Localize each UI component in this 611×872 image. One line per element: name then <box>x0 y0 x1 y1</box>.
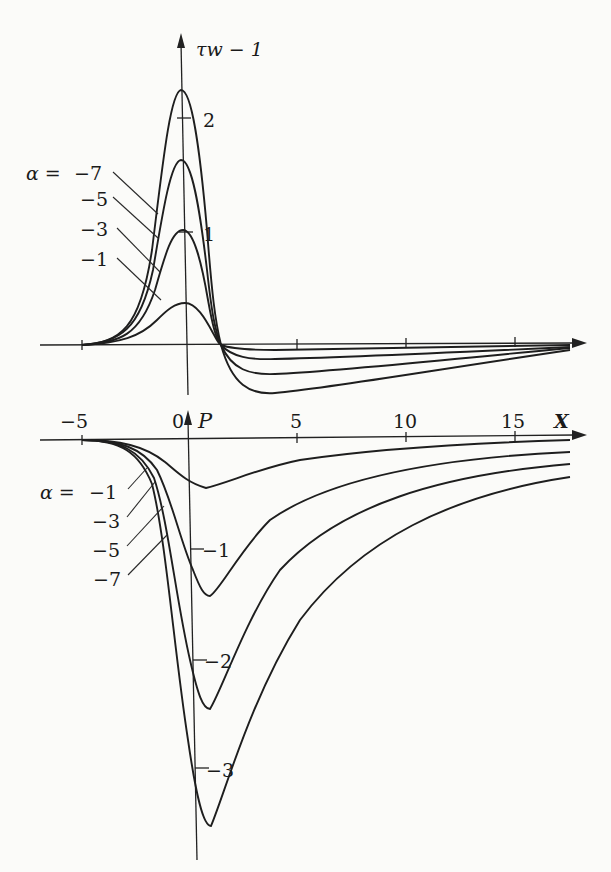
bottom-y-tick-label-m3: −3 <box>206 759 234 781</box>
figure: 2 1 τw − 1 α = −7 −5 −3 −1 −5 0 5 10 15 … <box>0 0 611 872</box>
top-legend-m7: −7 <box>74 162 102 184</box>
top-legend-title: α = <box>26 162 61 184</box>
x-tick-label-15: 15 <box>501 410 525 432</box>
top-y-axis-label: τw − 1 <box>196 38 263 60</box>
top-legend-m1: −1 <box>80 248 108 270</box>
bottom-legend-m5: −5 <box>92 539 120 561</box>
top-y-tick-label-2: 2 <box>203 109 215 131</box>
x-tick-label-0: 0 <box>172 410 184 432</box>
bottom-legend-m7: −7 <box>93 568 121 590</box>
x-tick-label-m5: −5 <box>60 410 88 432</box>
bottom-alpha-prefix: α = <box>40 481 75 503</box>
x-tick-label-10: 10 <box>393 410 417 432</box>
top-y-tick-label-1: 1 <box>203 223 215 245</box>
bottom-y-tick-label-m1: −1 <box>202 539 230 561</box>
x-axis-label: X <box>553 410 570 432</box>
bottom-legend-m3: −3 <box>92 510 120 532</box>
top-alpha-prefix: α = <box>26 162 61 184</box>
bottom-legend-title: α = <box>40 481 75 503</box>
bottom-legend-m1: −1 <box>89 481 117 503</box>
bottom-y-axis-label: P <box>197 409 213 433</box>
top-legend-m3: −3 <box>80 218 108 240</box>
x-tick-label-5: 5 <box>290 410 302 432</box>
top-legend-m5: −5 <box>80 188 108 210</box>
